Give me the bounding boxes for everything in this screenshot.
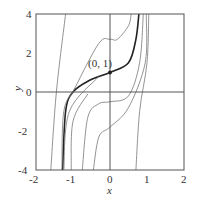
y-tick-neg2: -2	[18, 125, 27, 137]
x-tick-1: 1	[144, 173, 150, 185]
y-tick-neg4: -4	[18, 164, 28, 176]
solution-curve	[64, 76, 99, 170]
x-tick-neg1: -1	[66, 173, 75, 185]
y-tick-2: 2	[26, 47, 32, 59]
y-axis-label: y	[11, 86, 23, 92]
y-tick-0: 0	[26, 86, 32, 98]
x-tick-neg2: -2	[29, 173, 38, 185]
chart: (0, 1) 4 2 0 -2 -4 -2 -1 0 1 2 x y	[0, 0, 199, 205]
x-tick-2: 2	[181, 173, 187, 185]
y-tick-4: 4	[26, 8, 32, 20]
x-axis-label: x	[106, 184, 112, 196]
annotation-label: (0, 1)	[88, 57, 112, 70]
initial-point-marker	[108, 71, 112, 75]
